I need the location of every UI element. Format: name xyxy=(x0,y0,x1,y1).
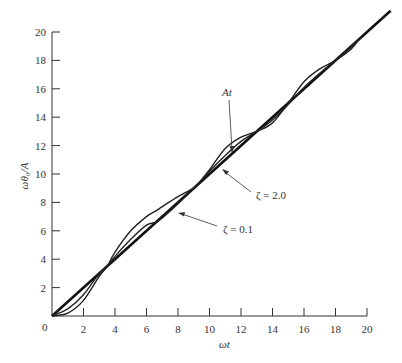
y-tick-label: 14 xyxy=(35,111,47,123)
zeta2-arrow xyxy=(225,172,251,192)
x-tick-label: 6 xyxy=(144,323,150,335)
x-tick-label: 8 xyxy=(175,323,181,335)
annotation-at: At xyxy=(221,86,233,98)
zeta01-arrowhead xyxy=(178,212,185,217)
x-tick-label: 14 xyxy=(267,323,279,335)
annotation-zeta-2: ζ = 2.0 xyxy=(256,189,287,202)
y-tick-label: 18 xyxy=(35,54,47,66)
y-tick-label: 16 xyxy=(35,83,47,95)
x-tick-label: 10 xyxy=(204,323,216,335)
annotation-zeta-0-1: ζ = 0.1 xyxy=(223,223,253,236)
chart: 24681012141618202468101214161820 At ζ = … xyxy=(0,0,402,363)
origin-label: 0 xyxy=(42,321,48,333)
x-tick-label: 20 xyxy=(362,323,374,335)
at-arrow xyxy=(229,100,232,150)
x-tick-label: 18 xyxy=(330,323,342,335)
zeta01-arrow xyxy=(182,214,217,226)
annotations: At ζ = 2.0 ζ = 0.1 xyxy=(178,86,287,236)
x-tick-label: 4 xyxy=(112,323,118,335)
x-tick-label: 2 xyxy=(81,323,87,335)
y-tick-label: 10 xyxy=(35,168,47,180)
y-tick-label: 6 xyxy=(41,225,47,237)
x-tick-label: 16 xyxy=(299,323,311,335)
y-axis-label: ωθ₀/A xyxy=(18,162,30,189)
y-tick-label: 12 xyxy=(35,140,46,152)
curves xyxy=(52,11,391,316)
y-tick-label: 20 xyxy=(35,26,47,38)
y-tick-label: 2 xyxy=(41,282,47,294)
x-tick-label: 12 xyxy=(236,323,247,335)
x-axis-label: ωt xyxy=(219,338,231,350)
y-tick-label: 8 xyxy=(41,196,47,208)
y-tick-label: 4 xyxy=(41,253,47,265)
